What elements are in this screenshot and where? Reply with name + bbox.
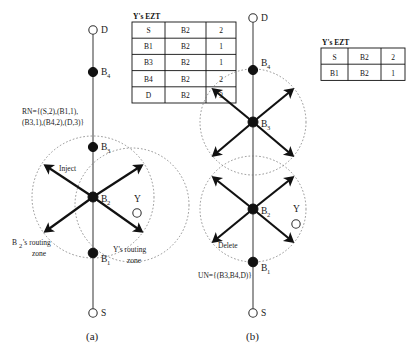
b2-routing-zone-label2: 's routing xyxy=(23,238,51,247)
table-cell: S xyxy=(332,53,336,62)
panel-a-table-title: Y's EZT xyxy=(133,12,160,21)
table-cell: 2 xyxy=(391,53,395,62)
panel-a: Y's EZT S B2 2 B1 B2 1 B3 B2 1 B4 B2 2 D… xyxy=(12,12,236,343)
node-b2-b xyxy=(248,204,258,214)
table-cell: B3 xyxy=(144,58,153,67)
node-d-b xyxy=(249,14,257,22)
b2-routing-zone-label: B xyxy=(12,238,17,247)
table-cell: B2 xyxy=(181,26,190,35)
table-cell: 1 xyxy=(219,42,223,51)
table-cell: B2 xyxy=(360,53,369,62)
table-cell: 2 xyxy=(219,26,223,35)
node-d xyxy=(89,26,97,34)
b2-routing-zone-label3: zone xyxy=(32,249,47,258)
table-cell: B2 xyxy=(181,91,190,100)
node-s-label: S xyxy=(101,308,106,318)
node-y-label-b: Y xyxy=(293,204,300,214)
table-cell: B1 xyxy=(330,69,339,78)
table-cell: B2 xyxy=(360,69,369,78)
node-b2 xyxy=(88,192,98,202)
node-b3-subscript: 3 xyxy=(107,147,110,154)
table-cell: B2 xyxy=(181,75,190,84)
b2-routing-zone-subscript: 2 xyxy=(19,242,22,249)
node-y-label: Y xyxy=(134,194,141,204)
table-cell: 1 xyxy=(391,69,395,78)
y-routing-zone-label: Y's routing xyxy=(113,245,146,254)
panel-a-caption: (a) xyxy=(86,330,99,343)
node-b1-b xyxy=(248,257,258,267)
node-y-b xyxy=(292,220,300,228)
node-s-label-b: S xyxy=(261,308,266,318)
node-b4-b xyxy=(248,65,257,74)
table-cell: B4 xyxy=(144,75,153,84)
node-b2-subscript: 2 xyxy=(107,199,110,206)
inject-label: Inject xyxy=(59,164,77,173)
node-y xyxy=(133,209,141,217)
node-b4-subscript-b: 4 xyxy=(267,63,271,70)
node-b3 xyxy=(88,142,97,151)
node-b4 xyxy=(88,67,97,76)
node-b1 xyxy=(88,248,98,258)
panel-b-table: Y's EZT S B2 2 B1 B2 1 xyxy=(321,38,405,80)
table-cell: B1 xyxy=(144,42,153,51)
node-d-label-b: D xyxy=(261,13,268,23)
node-s-b xyxy=(249,309,257,317)
node-s xyxy=(89,309,97,317)
table-cell: B2 xyxy=(181,58,190,67)
node-b4-subscript: 4 xyxy=(107,72,111,79)
panel-a-table: Y's EZT S B2 2 B1 B2 1 B3 B2 1 B4 B2 2 D… xyxy=(132,12,236,103)
table-cell: B2 xyxy=(181,42,190,51)
un-set-line1: UN={(B3,B4,D)} xyxy=(198,271,252,280)
figure-container: Y's EZT S B2 2 B1 B2 1 B3 B2 1 B4 B2 2 D… xyxy=(0,0,412,350)
node-b1-subscript-b: 1 xyxy=(267,268,270,275)
rn-set-line2: (B3,1),(B4,2),(D,3)} xyxy=(22,118,84,127)
rn-set-line1: RN={(S,2),(B1,1), xyxy=(22,107,78,116)
y-routing-zone-label2: zone xyxy=(127,256,142,265)
diagram-canvas: Y's EZT S B2 2 B1 B2 1 B3 B2 1 B4 B2 2 D… xyxy=(0,0,412,350)
node-b1-subscript: 1 xyxy=(107,259,110,266)
table-cell: S xyxy=(146,26,150,35)
table-cell: 1 xyxy=(219,58,223,67)
panel-b-table-title: Y's EZT xyxy=(322,38,349,47)
delete-label: Delete xyxy=(218,241,238,250)
table-cell: D xyxy=(146,91,152,100)
node-b3-b xyxy=(248,117,258,127)
panel-b-caption: (b) xyxy=(246,330,259,343)
node-b2-subscript-b: 2 xyxy=(267,211,270,218)
node-d-label: D xyxy=(101,25,108,35)
node-b3-subscript-b: 3 xyxy=(267,124,270,131)
